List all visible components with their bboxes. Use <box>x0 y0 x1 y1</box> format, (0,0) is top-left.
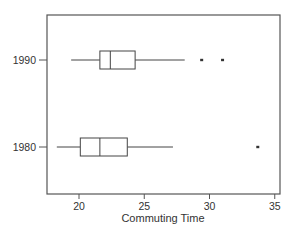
x-tick-label: 20 <box>73 200 85 212</box>
y-tick-label: 1980 <box>13 141 37 153</box>
outlier-point <box>200 59 203 61</box>
x-axis-title: Commuting Time <box>121 212 204 224</box>
outlier-point <box>221 59 224 61</box>
y-tick-label: 1990 <box>13 54 37 66</box>
box-plot-chart: 19901980 20253035 Commuting Time <box>0 0 299 236</box>
iqr-box <box>80 138 127 156</box>
plot-frame <box>47 15 280 194</box>
box-1980 <box>57 138 259 156</box>
box-1990 <box>71 51 224 69</box>
iqr-box <box>100 51 135 69</box>
y-axis: 19901980 <box>13 54 47 153</box>
x-axis: 20253035 <box>73 194 281 212</box>
x-tick-label: 30 <box>204 200 216 212</box>
box-series <box>57 51 259 156</box>
x-tick-label: 25 <box>138 200 150 212</box>
outlier-point <box>256 146 259 148</box>
x-tick-label: 35 <box>269 200 281 212</box>
chart-canvas: 19901980 20253035 Commuting Time <box>0 0 299 236</box>
